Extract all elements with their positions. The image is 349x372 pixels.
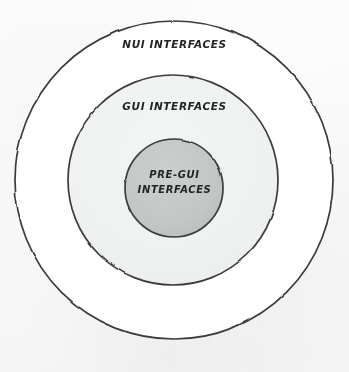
cropped-caption-text: ᴀɪɢ ᴀᴍ ɪᴏʀ ʜᴇ ᴏʀ ᴋᴇ ᴀᴍ ᴏ ʜᴏ ɪᴏ ᴏʀ ᴋᴇ: [2, 362, 347, 364]
cropped-caption-strip: ᴀɪɢ ᴀᴍ ɪᴏʀ ʜᴇ ᴏʀ ᴋᴇ ᴀᴍ ᴏ ʜᴏ ɪᴏ ᴏʀ ᴋᴇ: [0, 362, 349, 372]
ring-label-nui: NUI INTERFACES: [0, 38, 349, 50]
ring-label-gui: GUI INTERFACES: [0, 100, 349, 112]
diagram-canvas: NUI INTERFACES GUI INTERFACES PRE-GUI IN…: [0, 0, 349, 372]
ring-label-pre-gui: PRE-GUI INTERFACES: [0, 167, 349, 197]
ring-label-pre-gui-line2: INTERFACES: [0, 182, 349, 197]
ring-label-pre-gui-line1: PRE-GUI: [0, 167, 349, 182]
